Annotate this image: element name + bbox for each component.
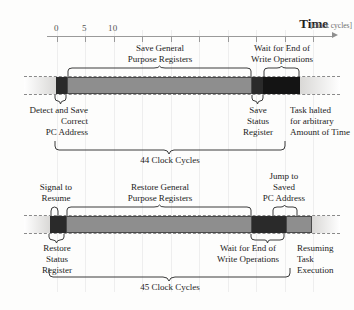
label-restore-status-line1: Restore [26, 243, 88, 254]
segment-save-status [252, 77, 263, 94]
label-signal-resume-line1: Signal to [18, 182, 94, 193]
segment-jump-saved-pc [286, 216, 312, 233]
axis-tick-label-5: 5 [82, 23, 87, 33]
label-wait-writes-line1: Wait for End of [222, 43, 342, 54]
label-save-status-line2: Status [228, 116, 288, 127]
segment-resuming-task [312, 216, 340, 233]
label-jump-saved-pc-line2: Saved [246, 182, 322, 193]
axis-unit-label: [clock cycles] [310, 21, 352, 30]
label-total-45-clock-cycles: 45 Clock Cycles [110, 282, 230, 292]
label-save-gpr-line2: Purpose Registers [100, 54, 220, 65]
axis-tick-label-0: 0 [54, 23, 59, 33]
brace-save-status [251, 95, 264, 104]
axis-tick [114, 36, 115, 42]
label-save-status-line3: Register [228, 127, 288, 138]
label-restore-gpr-line1: Restore General [92, 182, 228, 193]
segment-restore-status [50, 216, 66, 233]
label-save-status-line1: Save [228, 105, 288, 116]
brace-wait-writes [263, 66, 300, 77]
label-restore-gpr-line2: Purpose Registers [92, 193, 228, 204]
segment-wait-writes [263, 77, 300, 94]
time-axis-line [47, 36, 334, 37]
timing-diagram-figure: 0 5 10 Time [clock cycles] Save General … [0, 0, 354, 310]
brace-detect-save-pc [54, 95, 67, 104]
label-task-halted-line2: for arbitrary [290, 116, 354, 127]
segment-save-gpr [67, 77, 252, 94]
segment-detect-save-pc [56, 77, 67, 94]
axis-tick-label-10: 10 [108, 23, 117, 33]
label-detect-save-pc-line1: Detect and Save [0, 105, 88, 116]
brace-restore-status [48, 234, 66, 243]
axis-tick [256, 36, 257, 42]
label-signal-resume-line2: Resume [18, 193, 94, 204]
brace-wait-writes-2 [250, 234, 286, 243]
label-total-44-clock-cycles: 44 Clock Cycles [110, 155, 230, 165]
axis-tick [199, 36, 200, 42]
segment-restore-gpr [66, 216, 252, 233]
label-detect-save-pc-line3: PC Address [0, 127, 88, 138]
timeline1-guide-bottom [24, 94, 340, 95]
label-wait-writes2-line1: Wait for End of [201, 243, 295, 254]
timeline2-guide-bottom [24, 233, 340, 234]
brace-save-gpr [67, 66, 252, 77]
label-jump-saved-pc-line1: Jump to [246, 171, 322, 182]
brace-total-44 [54, 141, 286, 155]
axis-tick [85, 36, 86, 42]
time-axis-arrow-icon [332, 32, 338, 38]
brace-total-45 [48, 268, 291, 282]
label-save-gpr-line1: Save General [100, 43, 220, 54]
label-task-halted-line3: Amount of Time [290, 127, 354, 138]
label-restore-status-line2: Status [26, 254, 88, 265]
axis-tick [171, 36, 172, 42]
segment-pre [24, 77, 56, 94]
timeline2-bar [24, 216, 340, 233]
label-resuming-line3: Execution [297, 265, 354, 276]
axis-tick [142, 36, 143, 42]
label-resuming-line1: Resuming [297, 243, 354, 254]
label-detect-save-pc-line2: Correct [0, 116, 88, 127]
axis-tick [285, 36, 286, 42]
axis-tick [313, 36, 314, 42]
segment-pre2 [24, 216, 50, 233]
axis-tick [228, 36, 229, 42]
label-resuming-line2: Task [297, 254, 354, 265]
label-wait-writes-line2: Write Operations [222, 54, 342, 65]
label-task-halted-line1: Task halted [290, 105, 354, 116]
label-wait-writes2-line2: Write Operations [201, 254, 295, 265]
segment-wait-writes-2 [252, 216, 286, 233]
label-jump-saved-pc-line3: PC Address [246, 193, 322, 204]
timeline1-bar [24, 77, 340, 94]
segment-task-halted [300, 77, 340, 94]
axis-tick [57, 36, 58, 42]
